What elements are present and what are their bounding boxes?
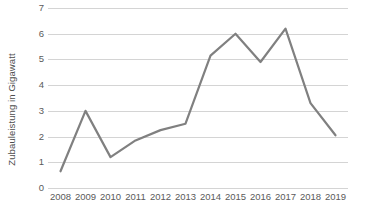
gridline (48, 188, 348, 189)
y-axis-tick-label: 3 (22, 106, 44, 116)
y-axis-tick-labels: 76543210 (22, 8, 44, 188)
y-axis-tick-label: 5 (22, 55, 44, 65)
x-axis-tick-label: 2013 (175, 192, 196, 202)
x-axis-tick-labels: 2008200920102011201220132014201520162017… (48, 192, 348, 212)
y-axis-tick-label: 1 (22, 158, 44, 168)
line-chart: Zubauleistung in Gigawatt 76543210 20082… (0, 0, 365, 219)
y-axis-tick-label: 4 (22, 80, 44, 90)
x-axis-tick-label: 2009 (75, 192, 96, 202)
plot-area (48, 8, 348, 188)
x-axis-tick-label: 2017 (275, 192, 296, 202)
x-axis-tick-label: 2010 (100, 192, 121, 202)
x-axis-tick-label: 2019 (325, 192, 346, 202)
x-axis-tick-label: 2008 (50, 192, 71, 202)
x-axis-tick-label: 2016 (250, 192, 271, 202)
y-axis-tick-label: 0 (22, 183, 44, 193)
y-axis-tick-label: 6 (22, 29, 44, 39)
y-axis-title: Zubauleistung in Gigawatt (0, 0, 22, 219)
x-axis-tick-label: 2012 (150, 192, 171, 202)
series-line-zubauleistung (48, 8, 348, 188)
y-axis-tick-label: 2 (22, 132, 44, 142)
x-axis-tick-label: 2015 (225, 192, 246, 202)
series-polyline (61, 29, 336, 172)
y-axis-tick-label: 7 (22, 3, 44, 13)
x-axis-tick-label: 2014 (200, 192, 221, 202)
x-axis-tick-label: 2018 (300, 192, 321, 202)
x-axis-tick-label: 2011 (125, 192, 145, 202)
